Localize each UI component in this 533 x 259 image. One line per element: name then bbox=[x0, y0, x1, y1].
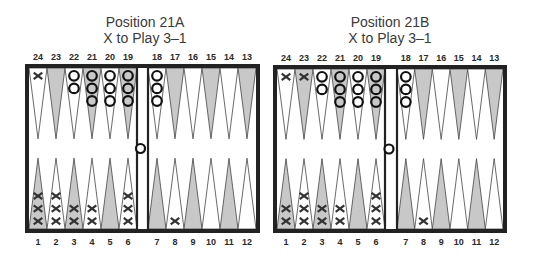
point-label-14: 14 bbox=[471, 53, 481, 63]
point-label-24: 24 bbox=[33, 52, 43, 62]
point-label-21: 21 bbox=[335, 53, 345, 63]
point-label-11: 11 bbox=[472, 237, 482, 247]
point-label-5: 5 bbox=[107, 237, 112, 247]
point-label-21: 21 bbox=[87, 52, 97, 62]
point-label-7: 7 bbox=[403, 237, 408, 247]
point-label-4: 4 bbox=[89, 237, 94, 247]
point-label-15: 15 bbox=[454, 53, 464, 63]
point-label-19: 19 bbox=[371, 53, 381, 63]
point-label-6: 6 bbox=[125, 237, 130, 247]
point-label-18: 18 bbox=[152, 52, 162, 62]
point-label-1: 1 bbox=[35, 237, 40, 247]
point-label-9: 9 bbox=[439, 237, 444, 247]
point-label-24: 24 bbox=[281, 53, 291, 63]
point-label-22: 22 bbox=[69, 52, 79, 62]
point-label-16: 16 bbox=[188, 52, 198, 62]
point-label-23: 23 bbox=[299, 53, 309, 63]
point-label-10: 10 bbox=[454, 237, 464, 247]
point-label-14: 14 bbox=[224, 52, 234, 62]
board-b: 241232223214205196187178169151014111312 bbox=[273, 53, 507, 247]
point-label-18: 18 bbox=[401, 53, 411, 63]
point-label-17: 17 bbox=[170, 52, 180, 62]
point-label-22: 22 bbox=[317, 53, 327, 63]
point-label-2: 2 bbox=[53, 237, 58, 247]
bar-checker-o bbox=[136, 144, 145, 153]
bar-checker-o bbox=[385, 145, 394, 154]
point-label-15: 15 bbox=[206, 52, 216, 62]
point-label-20: 20 bbox=[353, 53, 363, 63]
point-label-6: 6 bbox=[373, 237, 378, 247]
point-label-4: 4 bbox=[337, 237, 342, 247]
point-label-19: 19 bbox=[123, 52, 133, 62]
point-label-5: 5 bbox=[355, 237, 360, 247]
board-a: 241232223214205196187178169151014111312 bbox=[25, 52, 260, 247]
point-label-20: 20 bbox=[105, 52, 115, 62]
point-label-13: 13 bbox=[242, 52, 252, 62]
point-label-10: 10 bbox=[206, 237, 216, 247]
point-label-1: 1 bbox=[283, 237, 288, 247]
point-label-8: 8 bbox=[172, 237, 177, 247]
point-label-13: 13 bbox=[489, 53, 499, 63]
point-label-3: 3 bbox=[71, 237, 76, 247]
point-label-12: 12 bbox=[242, 237, 252, 247]
point-label-12: 12 bbox=[489, 237, 499, 247]
point-label-3: 3 bbox=[319, 237, 324, 247]
point-label-23: 23 bbox=[51, 52, 61, 62]
point-label-2: 2 bbox=[301, 237, 306, 247]
backgammon-diagram: 2412322232142051961871781691510141113122… bbox=[0, 0, 533, 259]
point-label-9: 9 bbox=[190, 237, 195, 247]
point-label-16: 16 bbox=[436, 53, 446, 63]
point-label-7: 7 bbox=[154, 237, 159, 247]
point-label-17: 17 bbox=[418, 53, 428, 63]
point-label-11: 11 bbox=[224, 237, 234, 247]
point-label-8: 8 bbox=[421, 237, 426, 247]
